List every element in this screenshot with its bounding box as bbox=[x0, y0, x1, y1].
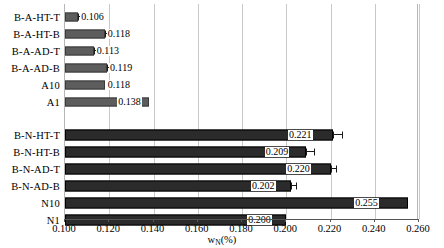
y-axis-category-label: B-N-HT-T bbox=[14, 129, 60, 140]
error-bar bbox=[333, 131, 343, 138]
bar bbox=[65, 29, 105, 38]
bar-value-label: 0.119 bbox=[109, 63, 133, 73]
error-bar-cap-left bbox=[331, 165, 332, 172]
chart-row: B-N-AD-B0.202 bbox=[65, 177, 417, 194]
x-axis-tick bbox=[64, 219, 65, 222]
x-axis-tick-label: 0.240 bbox=[362, 223, 386, 235]
x-axis-tick-label: 0.180 bbox=[229, 223, 253, 235]
chart-row: B-N-HT-B0.209 bbox=[65, 143, 417, 160]
chart-row: N100.255 bbox=[65, 194, 417, 211]
y-axis-category-label: A1 bbox=[47, 96, 60, 107]
plot-area: B-A-HT-T0.106B-A-HT-B0.118B-A-AD-T0.113B… bbox=[64, 4, 418, 219]
y-axis-category-label: N10 bbox=[41, 197, 60, 208]
bar bbox=[65, 80, 105, 89]
x-axis-title-unit: (%) bbox=[221, 234, 237, 245]
bar bbox=[65, 12, 78, 21]
y-axis-category-label: B-N-HT-B bbox=[13, 146, 60, 157]
chart-row: B-A-AD-T0.113 bbox=[65, 42, 417, 59]
bar bbox=[65, 46, 94, 55]
bar-value-label: 0.138 bbox=[117, 97, 142, 107]
error-bar-cap-left bbox=[291, 182, 292, 189]
y-axis-category-label: B-N-AD-B bbox=[11, 180, 60, 191]
y-axis-category-label: B-A-HT-T bbox=[14, 11, 60, 22]
y-axis-category-label: A10 bbox=[41, 79, 60, 90]
y-axis-category-label: B-A-HT-B bbox=[13, 28, 60, 39]
x-axis-tick-label: 0.200 bbox=[273, 223, 297, 235]
x-axis-tick bbox=[197, 219, 198, 222]
x-axis-tick bbox=[418, 219, 419, 222]
error-bar-cap-left bbox=[306, 148, 307, 155]
x-axis-title: wN(%) bbox=[0, 234, 444, 248]
chart-row: B-A-AD-B0.119 bbox=[65, 59, 417, 76]
x-axis-tick-label: 0.260 bbox=[406, 223, 430, 235]
chart-row: B-N-HT-T0.221 bbox=[65, 126, 417, 143]
y-axis-category-label: B-A-AD-B bbox=[11, 62, 60, 73]
chart-row: B-N-AD-T0.220 bbox=[65, 160, 417, 177]
x-axis-tick bbox=[153, 219, 154, 222]
x-axis-tick-label: 0.140 bbox=[141, 223, 165, 235]
error-bar-cap-right bbox=[342, 131, 343, 138]
error-bar-cap-right bbox=[296, 182, 297, 189]
y-axis-category-label: B-A-AD-T bbox=[12, 45, 60, 56]
x-axis-tick bbox=[374, 219, 375, 222]
bar-value-label: 0.221 bbox=[288, 130, 313, 140]
chart-row: B-A-HT-T0.106 bbox=[65, 8, 417, 25]
bar-value-label: 0.202 bbox=[251, 181, 276, 191]
bar-value-label: 0.118 bbox=[107, 29, 131, 39]
error-bar bbox=[306, 148, 315, 155]
chart-row: A100.118 bbox=[65, 76, 417, 93]
x-axis-tick bbox=[241, 219, 242, 222]
x-axis-tick bbox=[108, 219, 109, 222]
y-axis-category-label: B-N-AD-T bbox=[12, 163, 60, 174]
error-bar-cap-right bbox=[336, 165, 337, 172]
bar-value-label: 0.113 bbox=[96, 46, 120, 56]
bar bbox=[65, 63, 107, 72]
x-axis-tick-label: 0.160 bbox=[185, 223, 209, 235]
x-axis-tick-label: 0.120 bbox=[96, 223, 120, 235]
x-axis-tick-label: 0.100 bbox=[52, 223, 76, 235]
error-bar-cap-left bbox=[78, 13, 79, 20]
error-bar-cap-left bbox=[333, 131, 334, 138]
x-axis-tick bbox=[330, 219, 331, 222]
error-bar-cap-left bbox=[107, 64, 108, 71]
bar-value-label: 0.255 bbox=[354, 198, 379, 208]
x-axis-tick bbox=[285, 219, 286, 222]
x-axis-tick-label: 0.220 bbox=[318, 223, 342, 235]
chart-row: B-A-HT-B0.118 bbox=[65, 25, 417, 42]
error-bar-cap-left bbox=[94, 47, 95, 54]
error-bar-cap-left bbox=[105, 30, 106, 37]
bar-value-label: 0.118 bbox=[107, 80, 131, 90]
bar-value-label: 0.220 bbox=[286, 164, 311, 174]
error-bar-cap-right bbox=[314, 148, 315, 155]
bar-value-label: 0.209 bbox=[265, 147, 290, 157]
gridline bbox=[419, 4, 420, 219]
chart-row: A10.138 bbox=[65, 93, 417, 110]
error-bar bbox=[331, 165, 338, 172]
bar-value-label: 0.106 bbox=[80, 12, 105, 22]
bar-chart: B-A-HT-T0.106B-A-HT-B0.118B-A-AD-T0.113B… bbox=[0, 0, 444, 248]
error-bar bbox=[291, 182, 298, 189]
